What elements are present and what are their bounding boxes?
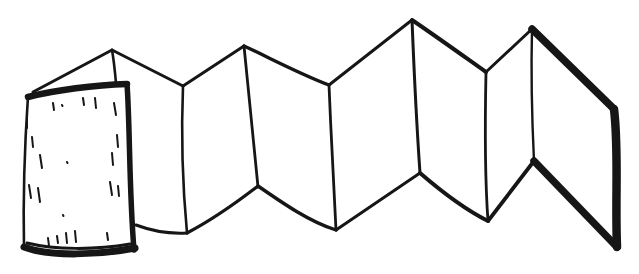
bottom-edge-valley3-peak4 — [488, 161, 534, 221]
back-cover-right-edge — [614, 109, 617, 247]
top-edge-valley2-peak3 — [329, 20, 412, 85]
bottom-edge-valley2-peak3 — [336, 173, 420, 230]
top-edge-peak1-valley1 — [112, 50, 183, 86]
fold-line-1 — [182, 86, 187, 233]
top-edge-peak2-valley2 — [244, 46, 329, 85]
bottom-edge-valley1-peak2 — [187, 186, 258, 233]
first-panel-fold-tip — [112, 50, 116, 83]
fold-line-2 — [244, 46, 258, 187]
back-cover-top-edge — [532, 29, 614, 109]
back-cover-spine-fold — [532, 29, 534, 161]
back-cover-bottom-edge — [534, 161, 617, 247]
front-cover-right-edge — [127, 84, 134, 250]
fold-line-5 — [485, 72, 488, 221]
front-cover-texture-hatches — [27, 98, 119, 246]
top-edge-valley3-peak4 — [486, 29, 532, 72]
bottom-edge-peak3-valley3 — [420, 173, 488, 221]
bottom-edge-peak2-valley2 — [258, 186, 336, 230]
fold-line-4 — [412, 20, 420, 173]
fold-line-3 — [329, 85, 336, 230]
top-edge-valley1-peak2 — [183, 46, 244, 86]
accordion-book-illustration — [0, 0, 639, 274]
first-panel-bottom-edge — [136, 225, 187, 233]
illustration-canvas — [0, 0, 639, 274]
top-edge-peak3-valley3 — [412, 20, 486, 72]
front-cover-bottom-inner-line — [27, 243, 130, 248]
